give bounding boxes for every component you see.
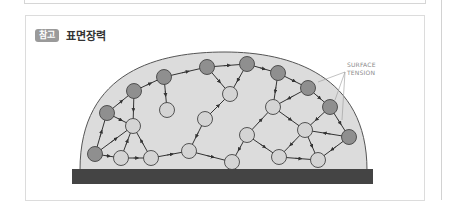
interior-molecule [223, 87, 238, 102]
surface-molecule [157, 70, 172, 85]
interior-molecule [182, 144, 197, 159]
substrate [72, 169, 373, 184]
surface-molecule [301, 81, 316, 96]
surface-molecule [88, 147, 103, 162]
interior-molecule [298, 123, 313, 138]
interior-molecule [225, 155, 240, 170]
surface-tension-label: SURFACE TENSION [347, 61, 376, 77]
surface-molecule [342, 130, 357, 145]
surface-molecule [200, 60, 215, 75]
surface-tension-diagram [0, 0, 449, 212]
interior-molecule [272, 150, 287, 165]
surface-molecule [127, 84, 142, 99]
surface-molecule [100, 106, 115, 121]
surface-molecule [323, 100, 338, 115]
interior-molecule [114, 151, 129, 166]
surface-molecule [240, 57, 255, 72]
interior-molecule [144, 151, 159, 166]
interior-molecule [311, 153, 326, 168]
interior-molecule [126, 119, 141, 134]
surface-molecule [271, 66, 286, 81]
interior-molecule [160, 103, 175, 118]
interior-molecule [240, 128, 255, 143]
interior-molecule [266, 100, 281, 115]
interior-molecule [198, 112, 213, 127]
